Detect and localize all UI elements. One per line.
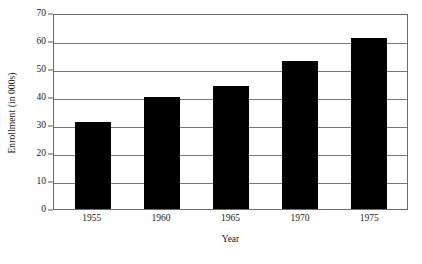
y-axis-tick-label: 0 — [41, 205, 46, 215]
x-axis-tick-label: 1975 — [335, 213, 404, 229]
bar-slot — [127, 15, 196, 209]
y-axis-tick-label: 10 — [37, 177, 47, 187]
bar-slot — [58, 15, 127, 209]
y-axis-tick-label: 20 — [37, 149, 47, 159]
bar — [144, 97, 180, 209]
bar-series — [54, 15, 407, 209]
x-axis-tick-label: 1955 — [57, 213, 126, 229]
y-axis-tick-label: 70 — [37, 9, 47, 19]
y-axis-title-text: Enrollment (in 000s) — [7, 72, 17, 153]
y-axis-tick-labels: 010203040506070 — [22, 14, 46, 210]
bar-chart: Enrollment (in 000s) 010203040506070 195… — [0, 0, 422, 264]
bar-slot — [196, 15, 265, 209]
bar — [75, 122, 111, 209]
y-axis-tick-label: 40 — [37, 93, 47, 103]
x-axis-tick-labels: 19551960196519701975 — [53, 213, 408, 229]
bar-slot — [334, 15, 403, 209]
x-axis-tick-label: 1960 — [126, 213, 195, 229]
y-axis-title: Enrollment (in 000s) — [0, 0, 24, 225]
bar — [282, 61, 318, 209]
y-axis-tick-label: 50 — [37, 65, 47, 75]
y-axis-tick-label: 60 — [37, 37, 47, 47]
bar — [351, 38, 387, 209]
x-axis-tick-label: 1970 — [265, 213, 334, 229]
bar — [213, 86, 249, 209]
y-axis-tick-label: 30 — [37, 121, 47, 131]
bar-slot — [265, 15, 334, 209]
x-axis-tick-label: 1965 — [196, 213, 265, 229]
x-axis-title: Year — [53, 234, 408, 244]
plot-area — [53, 14, 408, 210]
